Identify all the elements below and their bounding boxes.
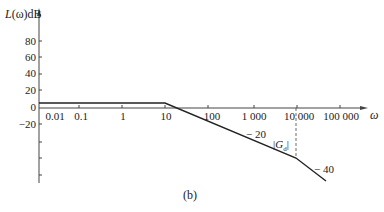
- y-tick-label-80: 80: [10, 36, 36, 47]
- x-axis-arrow: [360, 106, 368, 110]
- figure-caption: (b): [183, 190, 197, 201]
- x-tick-label-1000: 1 000: [242, 111, 267, 122]
- y-axis-label: L(ω)dB: [5, 9, 42, 20]
- y-tick-label-60: 60: [10, 52, 36, 63]
- y-tick-label-0: 0: [10, 102, 36, 113]
- x-tick-label-10000: 10 000: [284, 111, 314, 122]
- bode-plot: [0, 0, 384, 212]
- x-tick-label-1: 1: [120, 111, 126, 122]
- x-tick-label-100: 100: [204, 111, 221, 122]
- x-tick-label-0.01: 0.01: [45, 111, 64, 122]
- y-axis-label-L: L: [5, 7, 12, 21]
- gd-label: |Gd|: [273, 139, 289, 155]
- gd-bar-right: |: [287, 138, 289, 150]
- x-tick-label-10: 10: [161, 111, 172, 122]
- y-axis-label-unit: dB: [28, 7, 42, 21]
- slope-label-minus40: − 40: [314, 164, 334, 175]
- y-tick-label-neg20: −20: [10, 119, 36, 130]
- x-tick-label-100000: 100 000: [323, 111, 359, 122]
- gd-main: G: [275, 138, 283, 150]
- y-axis-label-omega: (ω): [12, 7, 28, 21]
- x-tick-label-0.1: 0.1: [74, 111, 88, 122]
- x-axis-label: ω: [370, 110, 378, 121]
- y-tick-label-20: 20: [10, 85, 36, 96]
- y-tick-label-40: 40: [10, 68, 36, 79]
- slope-label-minus20: − 20: [246, 129, 266, 140]
